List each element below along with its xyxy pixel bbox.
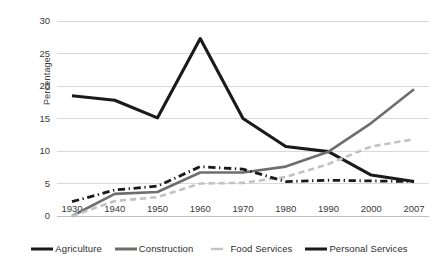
legend-label: Construction — [139, 243, 194, 254]
chart-legend: AgricultureConstructionFood ServicesPers… — [0, 243, 439, 254]
legend-label: Food Services — [230, 243, 292, 254]
legend-item-food-services[interactable]: Food Services — [206, 243, 292, 254]
plot-area — [0, 0, 439, 269]
legend-label: Agriculture — [55, 243, 102, 254]
series-line-agriculture — [72, 39, 414, 182]
legend-item-agriculture[interactable]: Agriculture — [31, 243, 102, 254]
series-line-construction — [72, 89, 414, 216]
legend-swatch-icon — [115, 244, 137, 254]
legend-item-construction[interactable]: Construction — [115, 243, 194, 254]
series-lines — [72, 39, 414, 216]
line-chart: Percentage 302520151050 1930194019501960… — [0, 0, 439, 269]
legend-swatch-icon — [305, 244, 327, 254]
legend-swatch-icon — [206, 244, 228, 254]
legend-label: Personal Services — [329, 243, 407, 254]
legend-swatch-icon — [31, 244, 53, 254]
legend-item-personal-services[interactable]: Personal Services — [305, 243, 407, 254]
